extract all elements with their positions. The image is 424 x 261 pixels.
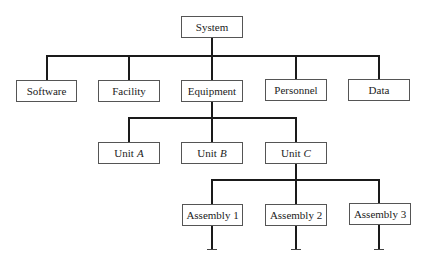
node-label: Data [369,84,390,96]
node-assembly-1: Assembly 1 [182,204,243,226]
node-label: Assembly 3 [354,208,406,220]
continuation-tick [207,249,217,250]
node-label: Facility [112,85,146,97]
connector [295,179,297,204]
connector [211,38,213,56]
connector-bus-level1 [46,55,380,57]
node-facility: Facility [98,80,160,102]
node-unit-b: UnitB [181,142,243,164]
node-system: System [181,16,243,38]
node-unit-c: UnitC [265,142,327,164]
continuation-stem [378,225,380,250]
connector [378,179,380,204]
node-label-prefix: Unit [281,147,301,159]
connector [211,179,213,204]
node-label-prefix: Unit [197,147,217,159]
node-unit-a: UnitA [98,142,160,164]
node-personnel: Personnel [265,79,327,101]
node-label: Assembly 2 [270,209,322,221]
continuation-tick [291,249,301,250]
connector [295,117,297,142]
node-label: System [196,21,228,33]
connector [378,55,380,80]
node-software: Software [16,80,77,102]
node-assembly-2: Assembly 2 [265,204,327,226]
continuation-stem [295,226,297,250]
node-equipment: Equipment [181,80,243,102]
node-label: Equipment [188,85,236,97]
node-data: Data [348,79,410,101]
continuation-tick [374,249,384,250]
node-label-suffix: B [220,147,227,159]
connector [128,117,130,142]
node-label: Software [27,85,67,97]
node-label-suffix: A [137,147,144,159]
node-assembly-3: Assembly 3 [349,203,411,225]
node-label-suffix: C [304,147,311,159]
continuation-stem [211,226,213,250]
node-label: Personnel [274,84,317,96]
connector [211,55,213,80]
connector [128,55,130,80]
connector [46,55,48,80]
node-label: Assembly 1 [186,209,238,221]
node-label-prefix: Unit [114,147,134,159]
connector [211,117,213,142]
connector [295,55,297,80]
